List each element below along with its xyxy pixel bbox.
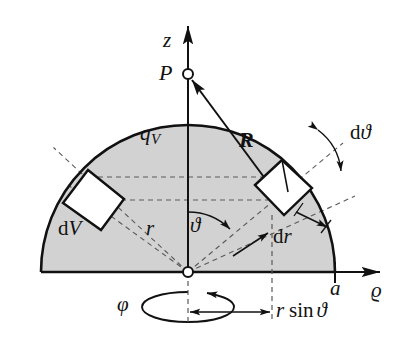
cyl-radius-op: sin: [289, 298, 314, 322]
radial-thickness-label: dr: [273, 226, 292, 247]
charge-density-label: qV: [140, 123, 160, 147]
origin-point: [183, 267, 193, 277]
cyl-radius-var1: r: [276, 298, 284, 322]
cyl-radius-var2: ϑ: [316, 298, 326, 322]
rho-axis-label: ϱ: [371, 280, 382, 301]
z-axis-label: z: [163, 30, 171, 51]
field-point-marker: [183, 69, 193, 79]
angle-increment-d: d: [350, 120, 361, 144]
radial-thickness-d: d: [273, 224, 284, 248]
sphere-radius-label: a: [330, 278, 341, 299]
azimuth-rotation-ellipse: [142, 272, 234, 326]
volume-element-d: d: [58, 216, 69, 240]
charge-density-subscript: V: [151, 131, 160, 147]
volume-element-var: V: [69, 216, 82, 240]
angle-increment-var: ϑ: [361, 120, 371, 144]
diagram-canvas: [0, 0, 416, 342]
radius-label: r: [146, 218, 154, 239]
angle-increment-label: dϑ: [350, 122, 371, 143]
radial-thickness-var: r: [284, 224, 292, 248]
azimuth-angle-label: φ: [117, 294, 129, 315]
polar-angle-label: ϑ: [190, 215, 200, 236]
cylindrical-radius-label: r sinϑ: [276, 300, 327, 321]
physics-diagram-figure: z P qV R dϑ dV r ϑ dr a ϱ φ r sinϑ: [0, 0, 416, 342]
distance-vector-label: R: [239, 129, 254, 151]
angle-increment-dimension: [318, 130, 341, 171]
charge-density-base: q: [140, 121, 151, 145]
field-point-label: P: [159, 62, 172, 84]
volume-element-label: dV: [58, 218, 81, 239]
